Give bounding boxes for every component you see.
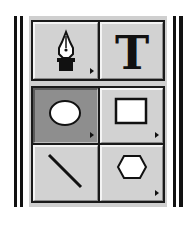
pen-tool-button[interactable] bbox=[33, 22, 98, 79]
ellipse-icon bbox=[35, 90, 98, 143]
flyout-indicator-icon bbox=[90, 132, 94, 138]
flyout-indicator-icon bbox=[90, 68, 94, 74]
frame-line-left-inner bbox=[20, 16, 23, 207]
line-icon bbox=[35, 147, 98, 201]
tool-group-2 bbox=[31, 86, 165, 203]
frame-line-right-inner bbox=[173, 16, 176, 207]
tool-group-1: T bbox=[31, 20, 165, 81]
frame-line-left-outer bbox=[14, 16, 17, 207]
rectangle-icon bbox=[102, 90, 163, 143]
pen-nib-icon bbox=[35, 24, 98, 79]
rectangle-tool-button[interactable] bbox=[100, 88, 163, 143]
flyout-indicator-icon bbox=[155, 190, 159, 196]
polygon-tool-button[interactable] bbox=[100, 145, 163, 201]
frame-line-right-outer bbox=[179, 16, 183, 207]
text-tool-button[interactable]: T bbox=[100, 22, 163, 79]
ellipse-tool-button[interactable] bbox=[33, 88, 98, 143]
text-icon: T bbox=[102, 30, 162, 76]
line-tool-button[interactable] bbox=[33, 145, 98, 201]
polygon-icon bbox=[102, 147, 163, 201]
flyout-indicator-icon bbox=[155, 132, 159, 138]
